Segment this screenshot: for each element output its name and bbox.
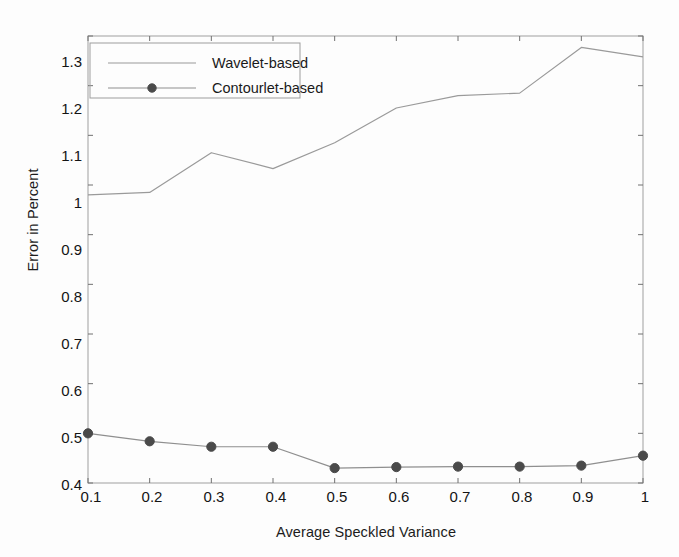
figure-canvas: Error in Percent 0.4 0.5 0.6 0.7 0.8 0.9… <box>0 0 679 557</box>
data-point <box>577 461 586 470</box>
data-point <box>515 462 524 471</box>
data-point <box>330 464 339 473</box>
series-line-0 <box>88 47 643 195</box>
data-point <box>207 442 216 451</box>
data-point <box>268 442 277 451</box>
legend-label-contourlet: Contourlet-based <box>212 80 323 96</box>
tick-marks <box>88 36 643 483</box>
axes-frame-rect <box>88 36 643 483</box>
plot-area <box>0 0 679 557</box>
data-series-group <box>83 47 647 472</box>
data-point <box>145 437 154 446</box>
data-point <box>638 451 647 460</box>
data-point <box>453 462 462 471</box>
series-line-1 <box>88 433 643 468</box>
legend-sample-marker <box>148 84 156 92</box>
data-point <box>83 429 92 438</box>
data-point <box>392 463 401 472</box>
legend-label-wavelet: Wavelet-based <box>212 55 308 71</box>
axes-frame <box>88 36 643 483</box>
